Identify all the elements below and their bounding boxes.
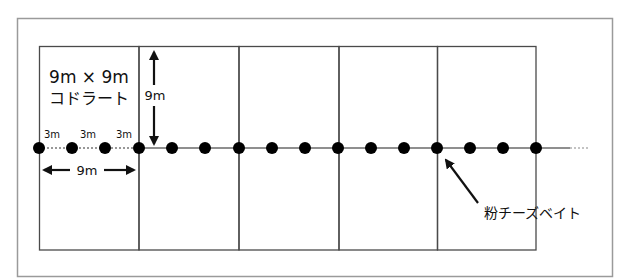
bait-dot [166, 142, 178, 154]
bait-dot [299, 142, 311, 154]
bait-pointer-arrow [446, 160, 478, 203]
quadrat-name-label: コドラート [49, 89, 129, 108]
bait-dot [66, 142, 78, 154]
spacing-label-1: 3m [44, 129, 60, 140]
bait-dot [365, 142, 377, 154]
bait-dot [332, 142, 344, 154]
bait-dot [33, 142, 45, 154]
bait-label: 粉チーズベイト [484, 205, 581, 221]
quadrat-diagram: 9m × 9m コドラート 3m 3m 3m 9m 9m 粉チーズベイト [0, 0, 626, 279]
bait-dot [99, 142, 111, 154]
bait-dot [530, 142, 542, 154]
bait-dot [133, 142, 145, 154]
vertical-dimension-label: 9m [145, 88, 166, 103]
spacing-label-3: 3m [116, 129, 132, 140]
quadrat-size-label: 9m × 9m [49, 67, 129, 87]
bait-dot [431, 142, 443, 154]
bait-dot [266, 142, 278, 154]
bait-dot [464, 142, 476, 154]
bait-dot [233, 142, 245, 154]
bait-dot [497, 142, 509, 154]
bait-dot [199, 142, 211, 154]
spacing-label-2: 3m [80, 129, 96, 140]
bait-dot [398, 142, 410, 154]
horizontal-dimension-label: 9m [77, 163, 98, 178]
